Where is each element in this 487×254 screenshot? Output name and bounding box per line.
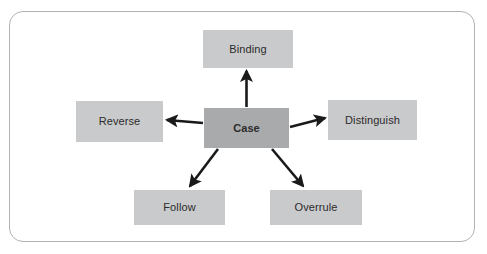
arrow-case-to-distinguish: [290, 118, 325, 127]
node-overrule-label: Overrule: [295, 201, 338, 213]
arrow-case-to-reverse: [167, 120, 203, 123]
node-binding-label: Binding: [229, 43, 266, 55]
node-reverse[interactable]: Reverse: [76, 101, 163, 142]
node-case-label: Case: [233, 122, 260, 134]
diagram-canvas: Binding Reverse Case Distinguish Follow …: [0, 0, 487, 254]
node-follow[interactable]: Follow: [134, 190, 225, 225]
node-overrule[interactable]: Overrule: [270, 190, 362, 225]
node-reverse-label: Reverse: [99, 115, 141, 127]
node-case-center[interactable]: Case: [204, 108, 289, 148]
node-distinguish-label: Distinguish: [345, 114, 400, 126]
arrow-case-to-overrule: [272, 149, 303, 186]
arrow-case-to-follow: [190, 149, 218, 186]
node-binding[interactable]: Binding: [203, 30, 293, 68]
node-follow-label: Follow: [163, 201, 195, 213]
node-distinguish[interactable]: Distinguish: [328, 100, 417, 140]
